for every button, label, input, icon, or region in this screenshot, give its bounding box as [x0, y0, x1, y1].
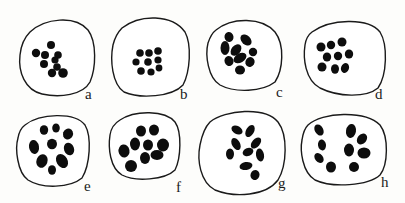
chromosome-blob — [156, 65, 163, 72]
cell-g-label: g — [278, 175, 286, 191]
cell-a-label: a — [85, 86, 92, 102]
chromosome-blob — [154, 47, 162, 55]
cell-d-label: d — [375, 86, 383, 102]
chromosome-blob — [130, 138, 140, 151]
cell-b: b — [112, 18, 190, 102]
chromosome-blob — [145, 49, 153, 57]
cell-c: c — [207, 20, 283, 100]
chromosome-blob — [144, 58, 152, 66]
chromosome-blob — [249, 48, 257, 56]
chromosome-blob — [47, 139, 57, 149]
chromosome-blob — [137, 67, 145, 75]
chromosome-blob — [41, 51, 49, 59]
cell-f: f — [109, 113, 181, 195]
chromosome-blob — [136, 126, 146, 137]
chromosome-blob — [358, 148, 371, 159]
cell-b-label: b — [180, 86, 188, 102]
chromosome-blob — [235, 66, 245, 75]
chromosome-blob — [317, 43, 326, 52]
cell-f-label: f — [176, 179, 181, 195]
cell-e: e — [17, 116, 91, 194]
chromosome-blob — [349, 162, 359, 172]
chromosome-blob — [323, 53, 331, 62]
cell-b-outline — [112, 18, 190, 96]
chromosome-blob — [40, 60, 48, 68]
chromosome-blob — [157, 139, 169, 152]
cell-h-outline — [301, 114, 386, 184]
chromosome-blob — [338, 38, 347, 47]
chromosome-blob — [318, 63, 327, 72]
chromosome-blob — [143, 140, 153, 151]
chromosome-blob — [125, 160, 137, 172]
chromosome-blob — [221, 41, 230, 55]
cell-c-label: c — [276, 84, 283, 100]
chromosome-blob — [334, 52, 342, 60]
cell-e-label: e — [84, 178, 91, 194]
chromosome-blob — [226, 149, 234, 160]
cell-g-outline — [199, 111, 285, 194]
chromosome-blob — [345, 50, 353, 59]
chromosome-blob — [154, 56, 161, 63]
chromosome-blob — [326, 162, 336, 173]
chromosome-blob — [48, 69, 56, 77]
cell-h: h — [301, 114, 389, 190]
chromosome-blob — [327, 41, 335, 49]
chromosome-blob — [136, 49, 144, 57]
chromosome-blob — [147, 68, 154, 75]
cell-d: d — [304, 21, 385, 102]
chromosome-blob — [47, 41, 55, 49]
chromosome-blob — [149, 125, 159, 136]
chromosome-blob — [48, 165, 56, 175]
cell-division-diagram: a b c d e f g h — [0, 0, 405, 203]
chromosome-blob — [52, 124, 60, 133]
cell-a: a — [20, 20, 95, 102]
chromosome-blob — [132, 58, 139, 65]
chromosome-blob — [140, 152, 150, 164]
chromosome-blob — [32, 49, 40, 57]
chromosome-blob — [331, 64, 339, 74]
chromosome-blob — [40, 125, 48, 135]
cell-d-outline — [304, 21, 385, 95]
chromosome-blob — [151, 150, 164, 160]
chromosome-blob — [58, 68, 68, 78]
chromosome-blob — [344, 144, 354, 157]
cell-g: g — [199, 111, 286, 194]
cell-h-label: h — [381, 174, 389, 190]
chromosome-blob — [51, 56, 58, 63]
